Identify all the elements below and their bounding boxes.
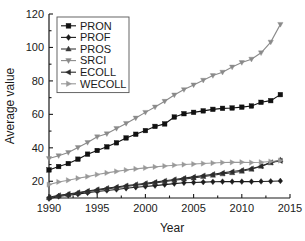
- data-point: [230, 160, 235, 165]
- data-point: [191, 180, 196, 186]
- data-point: [162, 122, 167, 127]
- x-axis-title: Year: [160, 221, 184, 235]
- data-point: [278, 22, 283, 27]
- data-point: [268, 98, 273, 103]
- x-tick-label: 2010: [230, 202, 254, 214]
- data-point: [85, 152, 90, 157]
- data-point: [230, 179, 235, 185]
- y-axis-tick-labels: 20406080100120: [26, 8, 44, 187]
- data-point: [47, 168, 52, 173]
- data-point: [220, 179, 225, 185]
- data-point: [163, 163, 168, 168]
- data-point: [172, 163, 177, 168]
- data-point: [191, 110, 196, 115]
- data-point: [249, 179, 254, 185]
- data-point: [76, 157, 81, 162]
- legend-label: PROS: [80, 43, 111, 55]
- data-point: [115, 169, 120, 174]
- data-point: [133, 132, 138, 137]
- data-point: [153, 124, 158, 129]
- data-point: [134, 166, 139, 171]
- data-point: [46, 157, 51, 162]
- data-point: [278, 178, 283, 184]
- data-point: [220, 106, 225, 111]
- data-point: [278, 92, 283, 97]
- chart-figure: 20406080100120 199019952000200520102015 …: [0, 0, 305, 241]
- legend-marker-square-icon: [66, 23, 71, 28]
- data-point: [201, 179, 206, 185]
- data-point: [86, 174, 91, 179]
- data-point: [211, 107, 216, 112]
- line-chart: 20406080100120 199019952000200520102015 …: [0, 0, 305, 241]
- data-point: [201, 109, 206, 114]
- data-point: [124, 136, 129, 141]
- legend-label: PROF: [80, 31, 111, 43]
- data-point: [76, 176, 81, 181]
- chart-legend: PRONPROFPROSSRCIECOLLWECOLL: [57, 17, 129, 93]
- data-point: [240, 105, 245, 110]
- data-point: [240, 160, 245, 165]
- data-point: [192, 161, 197, 166]
- legend-label: SRCI: [80, 54, 106, 66]
- data-point: [95, 148, 100, 153]
- y-tick-label: 60: [32, 108, 44, 120]
- data-point: [268, 178, 273, 184]
- y-tick-label: 100: [26, 41, 44, 53]
- data-point: [66, 161, 71, 166]
- x-tick-label: 2015: [278, 202, 302, 214]
- data-point: [124, 167, 129, 172]
- data-point: [172, 115, 177, 120]
- data-point: [221, 160, 226, 165]
- legend-label: PRON: [80, 20, 112, 32]
- legend-label: ECOLL: [80, 66, 116, 78]
- y-axis-title: Average value: [3, 67, 17, 144]
- x-tick-label: 1995: [85, 202, 109, 214]
- series-line: [49, 95, 280, 170]
- y-tick-label: 40: [32, 142, 44, 154]
- data-point: [143, 128, 148, 133]
- data-point: [105, 170, 110, 175]
- data-point: [95, 172, 100, 177]
- data-point: [105, 145, 110, 150]
- data-point: [66, 178, 71, 183]
- data-point: [56, 164, 61, 169]
- data-point: [249, 104, 254, 109]
- data-point: [162, 99, 167, 104]
- x-tick-label: 1990: [37, 202, 61, 214]
- legend-label: WECOLL: [80, 78, 126, 90]
- data-point: [201, 161, 206, 166]
- data-point: [143, 110, 148, 115]
- data-point: [172, 93, 177, 98]
- data-point: [153, 164, 158, 169]
- x-axis-tick-labels: 199019952000200520102015: [37, 202, 302, 214]
- y-tick-label: 20: [32, 175, 44, 187]
- data-point: [182, 162, 187, 167]
- y-tick-label: 80: [32, 75, 44, 87]
- data-point: [259, 179, 264, 185]
- data-point: [57, 179, 62, 184]
- x-tick-label: 2005: [181, 202, 205, 214]
- data-point: [211, 160, 216, 165]
- data-point: [143, 165, 148, 170]
- data-point: [249, 160, 254, 165]
- data-point: [258, 51, 263, 56]
- y-tick-label: 120: [26, 8, 44, 20]
- data-point: [240, 179, 245, 185]
- data-point: [230, 106, 235, 111]
- data-point: [211, 179, 216, 185]
- data-point: [114, 141, 119, 146]
- x-tick-label: 2000: [133, 202, 157, 214]
- data-point: [259, 100, 264, 105]
- data-point: [95, 135, 100, 140]
- data-point: [182, 111, 187, 116]
